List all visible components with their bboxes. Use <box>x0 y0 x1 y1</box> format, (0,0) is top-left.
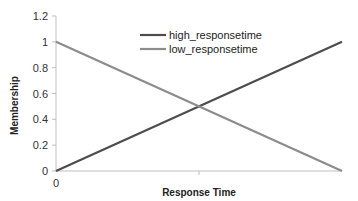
y-tick-label: 1.2 <box>33 10 48 22</box>
series-lines <box>56 42 342 171</box>
legend-label: low_responsetime <box>169 43 258 55</box>
y-tick-label: 0.8 <box>33 62 48 74</box>
membership-chart: 00.20.40.60.811.2 0 Membership Response … <box>0 0 358 201</box>
y-tick-label: 0.4 <box>33 113 48 125</box>
y-axis-title: Membership <box>9 76 20 135</box>
y-axis-ticks: 00.20.40.60.811.2 <box>33 10 56 177</box>
y-tick-label: 1 <box>42 36 48 48</box>
legend: high_responsetimelow_responsetime <box>140 29 262 55</box>
y-tick-label: 0.2 <box>33 139 48 151</box>
y-tick-label: 0.6 <box>33 88 48 100</box>
x-tick-label: 0 <box>53 177 59 189</box>
x-axis-title: Response Time <box>162 187 236 198</box>
legend-label: high_responsetime <box>169 29 262 41</box>
y-tick-label: 0 <box>42 165 48 177</box>
